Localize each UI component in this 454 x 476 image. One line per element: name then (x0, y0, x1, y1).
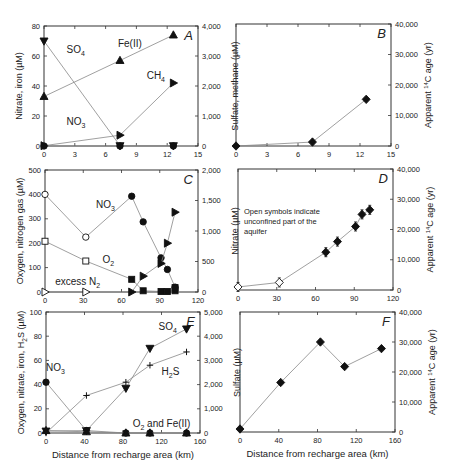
y-right-tick-label: 1,000 (204, 404, 223, 413)
y-right-axis-label: Apparent 14C age (yr) (423, 42, 433, 128)
y-right-tick-label: 30,000 (397, 195, 420, 204)
y-right-tick-label: 0 (202, 288, 206, 297)
annotation-text: unconfined part of the (244, 217, 317, 226)
panel-b: 03691215010,00020,00030,00040,000Apparen… (232, 20, 433, 159)
panel-c: 03060901200100200300400500Oxygen, nitrog… (15, 166, 240, 305)
circle-marker (117, 143, 123, 149)
triangle-down-marker (146, 345, 154, 352)
panel-a: 03691215020406080Nitrate, iron (µM)01,00… (14, 22, 240, 159)
x-tick-label: 12 (356, 150, 364, 159)
annotation-text: Open symbols indicate (244, 207, 320, 216)
series-label: H2S (162, 366, 180, 379)
x-tick-label: 80 (313, 436, 321, 445)
x-tick-label: 0 (44, 437, 48, 446)
y-right-tick-label: 2,000 (204, 380, 223, 389)
series-14c-age (232, 95, 370, 150)
triangle-up-marker (116, 56, 124, 63)
y-left-tick-label: 0 (38, 429, 42, 438)
series-label: SO4 (159, 321, 177, 334)
triangle-down-marker (183, 326, 191, 333)
x-tick-label: 90 (156, 296, 164, 305)
series-fe-ii-: Fe(II) (40, 31, 177, 100)
y-left-tick-label: 0 (37, 288, 41, 297)
y-left-tick-label: 400 (28, 190, 41, 199)
y-right-tick-label: 0 (204, 429, 208, 438)
y-right-tick-label: 40,000 (397, 165, 420, 174)
x-tick-label: 160 (389, 436, 402, 445)
panel-letter: B (377, 26, 386, 41)
circle-marker (164, 266, 170, 272)
triangle-up-marker (40, 92, 48, 99)
y-left-tick-label: 0 (36, 142, 40, 151)
series-label: SO4 (67, 44, 85, 57)
square-marker (129, 276, 135, 282)
y-right-tick-label: 1,000 (202, 112, 221, 121)
x-tick-label: 9 (327, 150, 331, 159)
y-right-axis-label: Sulfate, methane (µM) (230, 41, 240, 130)
diamond-marker (358, 210, 366, 218)
x-tick-label: 120 (350, 436, 363, 445)
diamond-marker (362, 95, 370, 103)
square-marker (172, 285, 178, 291)
x-tick-label: 40 (275, 436, 283, 445)
y-right-tick-label: 30,000 (395, 50, 418, 59)
circle-marker (42, 191, 48, 197)
triangle-right-marker (172, 208, 179, 216)
y-left-tick-label: 100 (28, 263, 41, 272)
triangle-down-marker (40, 38, 48, 45)
series-label: CH4 (147, 70, 165, 83)
panel-letter: F (382, 314, 391, 329)
panel-f: 04080120160010,00020,00030,00040,000Appa… (236, 308, 437, 459)
y-right-tick-label: 2,000 (202, 166, 221, 175)
y-left-tick-label: 80 (34, 332, 42, 341)
series-excess-n2: excess N2 (42, 208, 179, 296)
y-right-tick-label: 20,000 (395, 81, 418, 90)
x-axis-label: Distance from recharge area (km) (52, 449, 194, 460)
x-tick-label: 120 (192, 296, 205, 305)
y-right-tick-label: 10,000 (399, 398, 422, 407)
y-right-tick-label: 20,000 (397, 225, 420, 234)
square-marker (164, 289, 170, 295)
y-right-tick-label: 4,000 (204, 332, 223, 341)
x-tick-label: 9 (134, 150, 138, 159)
triangle-right-marker (170, 79, 177, 87)
triangle-right-marker (129, 288, 136, 296)
plus-marker (147, 362, 153, 368)
x-tick-label: 0 (42, 150, 46, 159)
y-left-axis-label: Oxygen, nitrate, iron, H2S (µM) (16, 311, 28, 434)
series-so4: SO4 (40, 38, 177, 150)
diamond-marker (377, 344, 385, 352)
x-tick-label: 40 (80, 437, 88, 446)
plot-frame (240, 312, 395, 432)
y-right-tick-label: 4,000 (202, 22, 221, 31)
panel-e: 04080120160020406080100Oxygen, nitrate, … (16, 308, 242, 460)
y-right-tick-label: 10,000 (395, 111, 418, 120)
diamond-marker (232, 142, 240, 150)
y-left-tick-label: 200 (28, 239, 41, 248)
x-tick-label: 90 (350, 294, 358, 303)
series-label: Fe(II) (118, 38, 142, 49)
x-tick-label: 15 (387, 150, 395, 159)
series-14c-age (236, 338, 385, 433)
y-left-axis-label: Oxygen, nitrogen gas (µM) (15, 178, 25, 285)
y-left-tick-label: 100 (29, 308, 42, 317)
y-right-tick-label: 0 (395, 142, 399, 151)
series-label: excess N2 (55, 276, 100, 289)
square-marker (158, 289, 164, 295)
y-left-tick-label: 80 (32, 22, 40, 31)
figure-canvas: 03691215020406080Nitrate, iron (µM)01,00… (0, 0, 454, 476)
y-right-tick-label: 3,000 (202, 52, 221, 61)
x-tick-label: 3 (73, 150, 77, 159)
square-marker (140, 288, 146, 294)
y-right-tick-label: 0 (399, 428, 403, 437)
x-tick-label: 120 (155, 437, 168, 446)
series-label: NO3 (96, 199, 115, 212)
square-marker (83, 258, 89, 264)
panel-letter: D (379, 171, 388, 186)
y-left-axis-label: Nitrate, iron (µM) (14, 52, 24, 120)
panel-letter: C (184, 172, 194, 187)
y-right-tick-label: 20,000 (399, 368, 422, 377)
circle-marker (129, 193, 135, 199)
panel-d: 0306090120010,00020,00030,00040,000Appar… (234, 165, 435, 303)
x-tick-label: 6 (104, 150, 108, 159)
